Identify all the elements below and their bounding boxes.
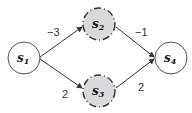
edge-weight-s3-s4: 2 bbox=[138, 81, 144, 93]
edge-s1-s3 bbox=[40, 59, 82, 88]
node-s4: s4 bbox=[155, 42, 187, 74]
node-s2: s2 bbox=[83, 8, 115, 40]
edge-s3-s4 bbox=[116, 59, 154, 88]
node-s3: s3 bbox=[83, 75, 115, 107]
edge-weight-s2-s4: −1 bbox=[135, 26, 148, 38]
edge-weight-s1-s3: 2 bbox=[62, 88, 68, 100]
graph-canvas: −3 −1 2 2 s1 s2 s3 s4 bbox=[0, 0, 192, 113]
node-s1: s1 bbox=[8, 42, 40, 74]
edge-weight-s1-s2: −3 bbox=[47, 26, 60, 38]
